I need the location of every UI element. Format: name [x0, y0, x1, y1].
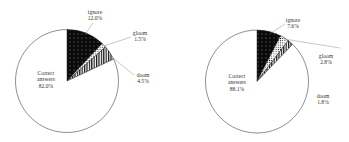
label-value: 4.5%	[134, 78, 152, 84]
leader-line-gloom-left	[104, 37, 131, 46]
label-gloom-right: gloom 2.8%	[316, 53, 336, 66]
label-value: 12.0%	[86, 15, 104, 21]
label-value: 7.6%	[284, 23, 302, 29]
label-name-line2: answers	[225, 79, 249, 85]
pie-slice-correct-answers	[206, 30, 309, 133]
pie-chart-figure: ignore 12.0% gloom 1.5% doom 4.5% Correc…	[0, 0, 349, 142]
label-name-line2: answers	[34, 76, 58, 82]
label-value: 88.1%	[225, 86, 249, 92]
label-doom-left: doom 4.5%	[134, 72, 152, 85]
label-doom-right: doom 1.8%	[313, 93, 333, 106]
label-value: 82.0%	[34, 83, 58, 89]
pie-chart-right	[206, 30, 309, 133]
pie-chart-left	[15, 30, 118, 133]
label-value: 2.8%	[316, 59, 336, 65]
leader-line-ignore-left	[86, 23, 93, 33]
label-ignore-right: ignore 7.6%	[284, 17, 302, 30]
leader-line-ignore-right	[271, 24, 285, 33]
label-ignore-left: ignore 12.0%	[86, 9, 104, 22]
label-correct-left: Correct answers 82.0%	[34, 70, 58, 89]
label-gloom-left: gloom 1.5%	[131, 30, 149, 43]
label-value: 1.8%	[313, 99, 333, 105]
label-correct-right: Correct answers 88.1%	[225, 73, 249, 92]
label-value: 1.5%	[131, 36, 149, 42]
